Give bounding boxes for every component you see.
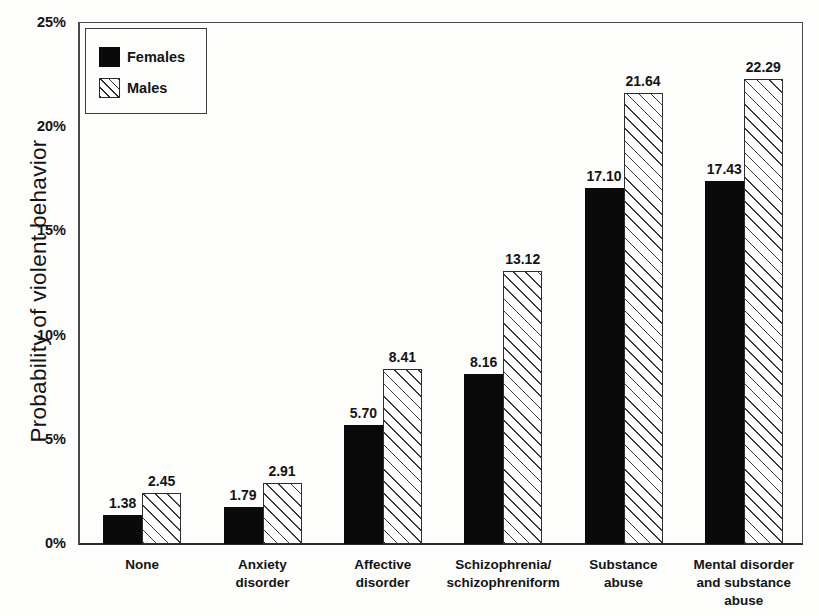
bar-females-4 xyxy=(585,188,624,544)
legend-swatch-males-icon xyxy=(99,78,120,98)
bar-females-0 xyxy=(103,515,142,544)
legend-box: Females Males xyxy=(85,28,207,114)
bar-value-label: 21.64 xyxy=(625,73,660,89)
bar-value-label: 8.41 xyxy=(389,349,416,365)
bar-group: 17.1021.64 xyxy=(585,23,663,544)
bar-females-5 xyxy=(705,181,744,544)
legend-label-females: Females xyxy=(127,49,185,65)
legend-item-females: Females xyxy=(99,47,185,67)
category-label-line: Mental disorder xyxy=(659,556,819,574)
bar-females-2 xyxy=(344,425,383,544)
y-tick-label-15: 15% xyxy=(14,222,66,238)
bar-males-1 xyxy=(263,483,302,544)
bar-group: 5.708.41 xyxy=(344,23,422,544)
bar-group: 8.1613.12 xyxy=(464,23,542,544)
bar-value-label: 5.70 xyxy=(350,405,377,421)
bar-value-label: 17.10 xyxy=(586,168,621,184)
bar-value-label: 1.79 xyxy=(229,487,256,503)
bar-males-0 xyxy=(142,493,181,544)
bar-value-label: 8.16 xyxy=(470,354,497,370)
bar-males-2 xyxy=(383,369,422,544)
bar-group: 17.4322.29 xyxy=(705,23,783,544)
y-tick-label-20: 20% xyxy=(14,118,66,134)
category-label-line: and substance xyxy=(659,574,819,592)
y-tick-label-10: 10% xyxy=(14,327,66,343)
legend-swatch-females-icon xyxy=(99,47,120,67)
category-label-line: abuse xyxy=(659,592,819,610)
chart-root: Probability of violent behavior 0%5%10%1… xyxy=(0,0,819,616)
y-tick-label-25: 25% xyxy=(14,14,66,30)
legend-label-males: Males xyxy=(127,80,167,96)
bar-value-label: 17.43 xyxy=(707,161,742,177)
bar-males-5 xyxy=(744,79,783,544)
bar-value-label: 22.29 xyxy=(746,59,781,75)
bar-females-1 xyxy=(224,507,263,544)
bar-males-3 xyxy=(503,271,542,544)
bar-value-label: 1.38 xyxy=(109,495,136,511)
bar-males-4 xyxy=(624,93,663,544)
bar-females-3 xyxy=(464,374,503,544)
y-tick-label-5: 5% xyxy=(14,431,66,447)
bar-value-label: 13.12 xyxy=(505,251,540,267)
y-tick-label-0: 0% xyxy=(14,535,66,551)
legend-item-males: Males xyxy=(99,78,167,98)
bar-value-label: 2.91 xyxy=(268,463,295,479)
bar-group: 1.792.91 xyxy=(224,23,302,544)
category-label-5: Mental disorderand substanceabuse xyxy=(659,556,819,610)
bar-value-label: 2.45 xyxy=(148,473,175,489)
